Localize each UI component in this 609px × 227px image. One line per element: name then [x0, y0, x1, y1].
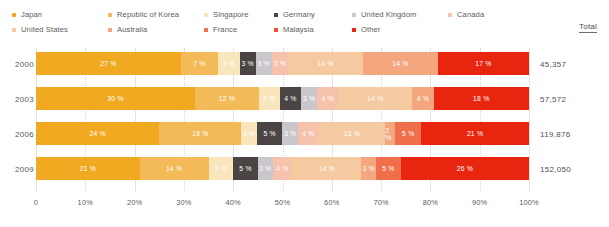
- segment-value-label: 4 %: [223, 60, 235, 67]
- stacked-bar: 24 %16 %3 %5 %3 %4 %13 %2 %5 %21 %: [36, 122, 529, 145]
- chart-row-2006: 200624 %16 %3 %5 %3 %4 %13 %2 %5 %21 %11…: [0, 122, 609, 145]
- axis-tick-label: 20%: [127, 198, 142, 207]
- bar-segment-republic-of-korea[interactable]: 14 %: [140, 157, 209, 180]
- bar-segment-other[interactable]: 26 %: [401, 157, 529, 180]
- bar-segment-united-kingdom[interactable]: 3 %: [256, 52, 272, 75]
- legend-swatch-icon: [12, 13, 16, 17]
- bar-segment-singapore[interactable]: 4 %: [259, 87, 280, 110]
- bar-segment-germany[interactable]: 5 %: [257, 122, 283, 145]
- legend-item-germany[interactable]: Germany: [274, 10, 315, 19]
- bar-segment-united-kingdom[interactable]: 3 %: [258, 157, 273, 180]
- bar-segment-singapore[interactable]: 5 %: [209, 157, 234, 180]
- row-total-value: 119,876: [540, 129, 570, 138]
- legend-row: JapanRepublic of KoreaSingaporeGermanyUn…: [12, 7, 492, 22]
- axis-tick-label: 40%: [225, 198, 240, 207]
- bar-segment-australia[interactable]: 14 %: [363, 52, 438, 75]
- bar-segment-other[interactable]: 18 %: [434, 87, 529, 110]
- segment-value-label: 3 %: [259, 165, 271, 172]
- bar-segment-republic-of-korea[interactable]: 7 %: [181, 52, 219, 75]
- legend-item-japan[interactable]: Japan: [12, 10, 42, 19]
- segment-value-label: 12 %: [219, 95, 235, 102]
- bar-segment-japan[interactable]: 27 %: [36, 52, 181, 75]
- legend-label: Singapore: [213, 10, 249, 19]
- bar-segment-germany[interactable]: 5 %: [233, 157, 258, 180]
- segment-value-label: 3 %: [243, 130, 255, 137]
- bar-segment-canada[interactable]: 4 %: [273, 157, 293, 180]
- bar-segment-germany[interactable]: 4 %: [280, 87, 301, 110]
- bar-segment-united-kingdom[interactable]: 3 %: [282, 122, 297, 145]
- segment-value-label: 4 %: [321, 95, 333, 102]
- segment-value-label: 4 %: [284, 95, 296, 102]
- segment-value-label: 18 %: [473, 95, 489, 102]
- bar-segment-singapore[interactable]: 3 %: [241, 122, 256, 145]
- bar-segment-republic-of-korea[interactable]: 12 %: [195, 87, 259, 110]
- segment-value-label: 5 %: [402, 130, 414, 137]
- bar-segment-canada[interactable]: 4 %: [298, 122, 319, 145]
- axis-tick-label: 80%: [423, 198, 438, 207]
- segment-value-label: 13 %: [344, 130, 360, 137]
- segment-value-label: 4 %: [276, 165, 288, 172]
- axis-tick-label: 90%: [472, 198, 487, 207]
- legend-item-united-states[interactable]: United States: [12, 25, 68, 34]
- legend-row: United StatesAustraliaFranceMalaysiaOthe…: [12, 22, 492, 37]
- bar-segment-canada[interactable]: 3 %: [272, 52, 288, 75]
- bar-segment-united-kingdom[interactable]: 3 %: [301, 87, 317, 110]
- segment-value-label: 16 %: [192, 130, 208, 137]
- bar-segment-japan[interactable]: 30 %: [36, 87, 195, 110]
- legend-swatch-icon: [204, 28, 208, 32]
- segment-value-label: 4 %: [263, 95, 275, 102]
- legend-swatch-icon: [352, 28, 356, 32]
- segment-value-label: 26 %: [457, 165, 473, 172]
- legend-swatch-icon: [204, 13, 208, 17]
- legend-swatch-icon: [352, 13, 356, 17]
- bar-segment-united-states[interactable]: 14 %: [338, 87, 412, 110]
- bar-segment-australia[interactable]: 2 %: [385, 122, 395, 145]
- segment-value-label: 24 %: [89, 130, 105, 137]
- segment-value-label: 2 %: [385, 127, 395, 141]
- bar-segment-australia[interactable]: 4 %: [412, 87, 433, 110]
- bar-segment-france[interactable]: 5 %: [395, 122, 421, 145]
- row-category-label: 2006: [6, 129, 34, 138]
- bar-segment-united-states[interactable]: 13 %: [318, 122, 385, 145]
- legend-item-singapore[interactable]: Singapore: [204, 10, 249, 19]
- bar-segment-japan[interactable]: 21 %: [36, 157, 140, 180]
- legend-swatch-icon: [274, 13, 278, 17]
- legend-item-canada[interactable]: Canada: [448, 10, 484, 19]
- bar-segment-france[interactable]: 5 %: [376, 157, 401, 180]
- legend-item-united-kingdom[interactable]: United Kingdom: [352, 10, 416, 19]
- bar-segment-other[interactable]: 17 %: [438, 52, 529, 75]
- bar-segment-united-states[interactable]: 14 %: [288, 52, 363, 75]
- bar-segment-united-states[interactable]: 14 %: [292, 157, 361, 180]
- stacked-bar: 21 %14 %5 %5 %3 %4 %14 %3 %5 %26 %: [36, 157, 529, 180]
- chart-legend: JapanRepublic of KoreaSingaporeGermanyUn…: [12, 7, 492, 37]
- bar-segment-canada[interactable]: 4 %: [317, 87, 338, 110]
- bar-segment-australia[interactable]: 3 %: [361, 157, 376, 180]
- chart-row-2009: 200921 %14 %5 %5 %3 %4 %14 %3 %5 %26 %15…: [0, 157, 609, 180]
- legend-item-malaysia[interactable]: Malaysia: [274, 25, 314, 34]
- axis-tick-label: 100%: [519, 198, 539, 207]
- segment-value-label: 14 %: [367, 95, 383, 102]
- axis-tick-label: 70%: [373, 198, 388, 207]
- stacked-bar: 30 %12 %4 %4 %3 %4 %14 %4 %18 %: [36, 87, 529, 110]
- bar-segment-singapore[interactable]: 4 %: [218, 52, 239, 75]
- segment-value-label: 14 %: [392, 60, 408, 67]
- segment-value-label: 14 %: [319, 165, 335, 172]
- legend-item-france[interactable]: France: [204, 25, 237, 34]
- legend-swatch-icon: [274, 28, 278, 32]
- segment-value-label: 17 %: [475, 60, 491, 67]
- segment-value-label: 30 %: [107, 95, 123, 102]
- bar-segment-other[interactable]: 21 %: [421, 122, 529, 145]
- segment-value-label: 5 %: [239, 165, 251, 172]
- legend-item-republic-of-korea[interactable]: Republic of Korea: [108, 10, 179, 19]
- x-axis: 010%20%30%40%50%60%70%80%90%100%: [36, 198, 529, 220]
- bar-segment-republic-of-korea[interactable]: 16 %: [159, 122, 241, 145]
- legend-item-other[interactable]: Other: [352, 25, 381, 34]
- legend-swatch-icon: [448, 13, 452, 17]
- chart-plot-area: 200027 %7 %4 %3 %3 %3 %14 %14 %17 %45,35…: [0, 48, 609, 198]
- axis-tick-label: 10%: [78, 198, 93, 207]
- bar-segment-germany[interactable]: 3 %: [240, 52, 256, 75]
- axis-tick-label: 50%: [275, 198, 290, 207]
- legend-item-australia[interactable]: Australia: [108, 25, 147, 34]
- segment-value-label: 21 %: [467, 130, 483, 137]
- bar-segment-japan[interactable]: 24 %: [36, 122, 159, 145]
